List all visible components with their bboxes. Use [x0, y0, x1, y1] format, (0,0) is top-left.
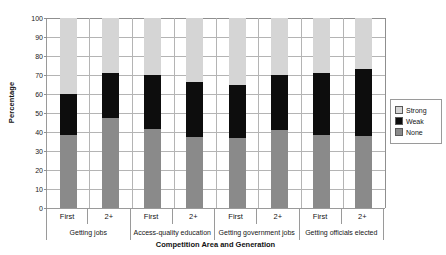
bar-cell	[301, 18, 343, 208]
y-tick-label: 60	[35, 91, 43, 98]
legend-label-none: None	[406, 129, 423, 136]
bar-segment-strong	[144, 18, 161, 75]
bar-segment-weak	[271, 75, 288, 130]
bar-cell	[132, 18, 174, 208]
legend-item-strong: Strong	[395, 106, 438, 114]
chart-legend: Strong Weak None	[390, 99, 442, 144]
bar-segment-none	[144, 129, 161, 208]
legend-label-strong: Strong	[406, 107, 427, 114]
generation-axis-row: First2+First2+First2+First2+	[46, 209, 385, 224]
generation-tick-label: First	[215, 209, 257, 224]
medium-gray-swatch	[395, 128, 403, 136]
bar-cell	[258, 18, 300, 208]
bar-segment-none	[229, 138, 246, 208]
y-tick-label: 40	[35, 129, 43, 136]
legend-item-weak: Weak	[395, 117, 438, 125]
stacked-bar	[186, 18, 203, 208]
bar-segment-none	[186, 137, 203, 208]
competition-area-label: Getting officials elected	[300, 224, 385, 240]
bar-segment-strong	[355, 18, 372, 69]
stacked-bar	[102, 18, 119, 208]
generation-tick-label: First	[46, 209, 88, 224]
y-axis-title: Percentage	[7, 68, 16, 138]
bar-segment-strong	[102, 18, 119, 73]
y-tick-label: 30	[35, 148, 43, 155]
bar-cell	[216, 18, 258, 208]
legend-label-weak: Weak	[406, 118, 424, 125]
bar-segment-none	[102, 118, 119, 208]
generation-tick-label: 2+	[88, 209, 130, 224]
category-separator	[385, 18, 386, 208]
bar-segment-weak	[144, 75, 161, 129]
bar-segment-weak	[102, 73, 119, 118]
legend-item-none: None	[395, 128, 438, 136]
competition-area-label: Access-quality education	[131, 224, 216, 240]
stacked-bar	[144, 18, 161, 208]
y-tick-label: 10	[35, 186, 43, 193]
bar-segment-weak	[355, 69, 372, 136]
y-tick-label: 20	[35, 167, 43, 174]
competition-area-axis-row: Getting jobsAccess-quality educationGett…	[46, 224, 385, 240]
bar-segment-weak	[229, 85, 246, 137]
bar-segment-weak	[313, 73, 330, 135]
y-tick-label: 80	[35, 53, 43, 60]
bar-segment-strong	[313, 18, 330, 73]
stacked-bar	[60, 18, 77, 208]
stacked-bar	[229, 18, 246, 208]
bar-segment-strong	[186, 18, 203, 82]
light-gray-swatch	[395, 106, 403, 114]
bar-segment-weak	[60, 94, 77, 135]
generation-tick-label: First	[300, 209, 342, 224]
stacked-bar	[355, 18, 372, 208]
competition-area-label: Getting government jobs	[215, 224, 300, 240]
competition-area-label: Getting jobs	[46, 224, 131, 240]
stacked-bar-chart-figure: Percentage 0102030405060708090100 First2…	[0, 0, 446, 255]
stacked-bar	[313, 18, 330, 208]
generation-tick-label: First	[131, 209, 173, 224]
stacked-bar	[271, 18, 288, 208]
bar-segment-strong	[271, 18, 288, 75]
bar-segment-none	[355, 136, 372, 208]
generation-tick-label: 2+	[342, 209, 384, 224]
bar-cell	[47, 18, 89, 208]
bar-segment-none	[60, 135, 77, 208]
bar-segment-strong	[229, 18, 246, 85]
bar-segment-none	[313, 135, 330, 208]
y-tick-label: 0	[39, 205, 43, 212]
bar-cell	[89, 18, 131, 208]
bar-segment-weak	[186, 82, 203, 137]
y-tick-label: 100	[31, 15, 43, 22]
y-tick-label: 50	[35, 110, 43, 117]
generation-tick-label: 2+	[173, 209, 215, 224]
y-tick-label: 70	[35, 72, 43, 79]
x-axis-title: Competition Area and Generation	[46, 240, 385, 249]
bar-segment-none	[271, 130, 288, 208]
plot-area: 0102030405060708090100	[46, 18, 385, 209]
black-swatch	[395, 117, 403, 125]
bar-cell	[343, 18, 385, 208]
bar-segment-strong	[60, 18, 77, 94]
generation-tick-label: 2+	[257, 209, 299, 224]
bar-cell	[174, 18, 216, 208]
y-tick-label: 90	[35, 34, 43, 41]
